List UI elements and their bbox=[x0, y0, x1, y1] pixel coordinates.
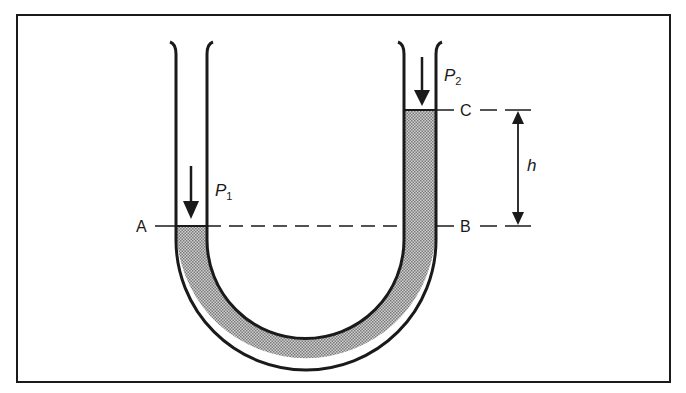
label-point-c: C bbox=[460, 102, 472, 119]
diagram-frame bbox=[17, 15, 670, 382]
tube-inner-wall bbox=[207, 42, 404, 339]
label-pressure-right: P2 bbox=[444, 66, 461, 87]
label-point-a: A bbox=[136, 218, 147, 235]
manometer-fluid bbox=[177, 110, 435, 358]
u-tube-manometer-diagram: A B C h P1 P2 bbox=[0, 0, 686, 393]
label-pressure-left: P1 bbox=[215, 181, 232, 202]
tube-outer-wall bbox=[170, 42, 442, 370]
label-height: h bbox=[527, 156, 536, 175]
label-point-b: B bbox=[460, 218, 471, 235]
pressure-arrow-left-icon bbox=[183, 166, 199, 219]
height-dimension-arrow-icon bbox=[512, 111, 524, 225]
pressure-arrow-right-icon bbox=[414, 57, 430, 106]
